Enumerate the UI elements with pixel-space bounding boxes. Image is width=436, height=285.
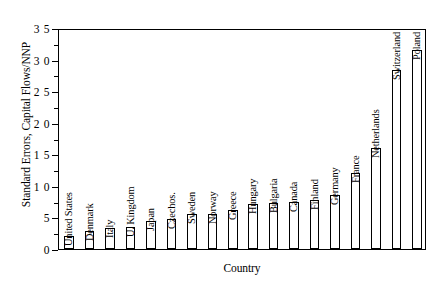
- bar: [371, 148, 381, 249]
- y-tick-label: 2 5: [16, 86, 50, 98]
- y-tick-label: 3 0: [16, 55, 50, 67]
- y-tick-mark: [52, 250, 58, 251]
- y-tick-label: 1 5: [16, 149, 50, 161]
- y-tick-label: 0: [16, 244, 50, 256]
- bar-category-label: France: [351, 155, 361, 182]
- bar-category-label: Czechos.: [167, 193, 177, 230]
- y-tick-label: 1 0: [16, 181, 50, 193]
- bar-category-label: Norway: [208, 191, 218, 224]
- bar-category-label: Poland: [412, 32, 422, 60]
- bar-category-label: Switzerland: [392, 32, 402, 80]
- bar: [412, 50, 422, 249]
- bar-category-label: Italy: [105, 220, 115, 238]
- bar-category-label: Bulgaria: [269, 178, 279, 213]
- bar-chart-figure: Standard Errors, Capital Flows/NNP 051 0…: [0, 0, 436, 285]
- bar-category-label: Denmark: [85, 203, 95, 241]
- bar-category-label: Japan: [146, 208, 156, 231]
- bar: [392, 70, 402, 249]
- bar-category-label: Canada: [289, 181, 299, 211]
- bar-category-label: United States: [64, 192, 74, 246]
- bar: [351, 173, 361, 249]
- y-tick-label: 5: [16, 212, 50, 224]
- y-tick-label: 2 0: [16, 118, 50, 130]
- bar-category-label: Hungary: [248, 178, 258, 213]
- y-tick-label: 3 5: [16, 23, 50, 35]
- bar-category-label: Finland: [310, 179, 320, 210]
- x-axis-label: Country: [58, 262, 426, 274]
- bar-category-label: Germany: [330, 168, 340, 206]
- bar-category-label: Greece: [228, 191, 238, 220]
- bar-category-label: Netherlands: [371, 109, 381, 158]
- bar-category-label: U. Kingdom: [126, 186, 136, 236]
- bar-category-label: Sweden: [187, 192, 197, 224]
- plot-area: United StatesDenmarkItalyU. KingdomJapan…: [58, 29, 426, 250]
